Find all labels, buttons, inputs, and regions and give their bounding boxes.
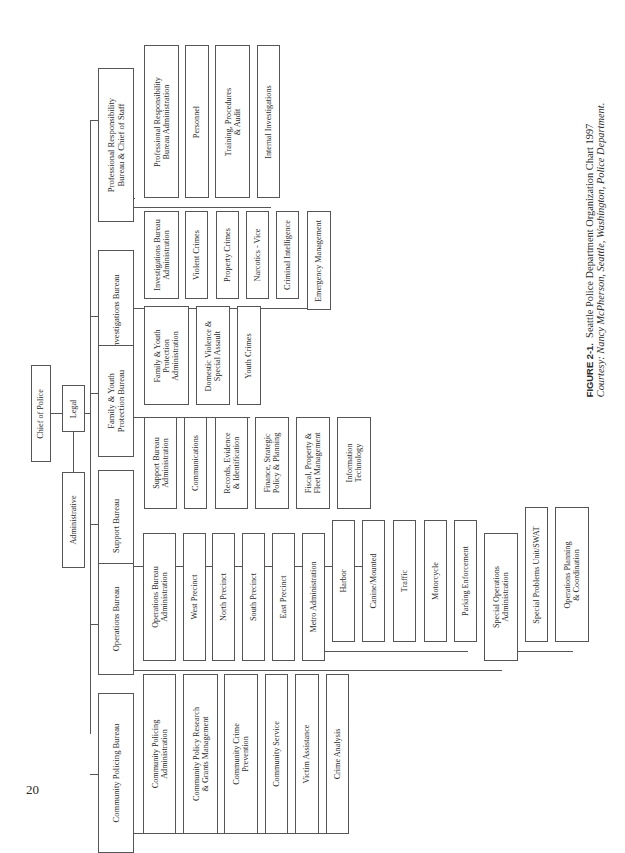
unit-label: Internal Investigations: [264, 85, 273, 158]
unit-box: Records, Evidence & Identification: [215, 417, 248, 509]
connector: [134, 198, 135, 199]
unit-box: Canine/Mounted: [362, 520, 385, 642]
unit-label: Parking Enforcement: [461, 546, 470, 616]
unit-label: Violent Crimes: [192, 230, 201, 280]
unit-box: North Precinct: [212, 533, 235, 661]
unit-box: Motorcycle: [424, 520, 447, 642]
unit-box: Finance, Strategic Policy & Planning: [255, 417, 289, 509]
unit-box: Internal Investigations: [257, 45, 280, 198]
unit-box: Special Operations Administration: [484, 533, 518, 661]
unit-label: Fiscal, Property & Fleet Management: [304, 432, 322, 493]
unit-label: Victim Assistance: [302, 725, 311, 784]
unit-box: Metro Administration: [302, 533, 325, 661]
unit-box: Information Technology: [337, 417, 371, 509]
metro-bus: [324, 651, 468, 652]
unit-label: Crime Analysis: [333, 729, 342, 780]
figure-label: FIGURE 2-1.: [584, 343, 595, 397]
bureau-operations: Operations Bureau: [98, 563, 134, 675]
figure-credit: Courtesy: Nancy McPherson, Seattle, Wash…: [595, 103, 606, 398]
unit-box: Investigations Bureau Administration: [144, 211, 179, 299]
unit-box: Criminal Intelligence: [276, 211, 299, 299]
unit-label: Professional Responsibility Bureau Admin…: [152, 77, 170, 167]
unit-label: Personnel: [192, 105, 201, 137]
unit-box: East Precinct: [272, 533, 295, 661]
bureau-label: Support Bureau: [111, 498, 121, 552]
unit-box: Violent Crimes: [185, 211, 208, 299]
unit-box: Traffic: [393, 520, 416, 642]
unit-label: Support Bureau Administration: [151, 437, 169, 489]
bureau-label: Family & Youth Protection Bureau: [106, 370, 126, 432]
bureau-label: Operations Bureau: [111, 587, 121, 652]
connector: [90, 120, 98, 121]
unit-box: Domestic Violence & Special Assault: [196, 306, 230, 405]
administrative-label: Administrative: [69, 495, 78, 544]
connector: [90, 774, 98, 775]
unit-label: Community Policing Administration: [150, 720, 168, 788]
unit-label: Community Crime Prevention: [232, 723, 250, 785]
unit-box: Professional Responsibility Bureau Admin…: [144, 45, 179, 198]
connector: [73, 432, 74, 472]
unit-label: North Precinct: [219, 573, 228, 621]
unit-label: Operations Bureau Administration: [150, 566, 168, 628]
unit-label: Community Service: [272, 721, 281, 787]
unit-label: Metro Administration: [309, 561, 318, 632]
unit-box: West Precinct: [183, 533, 206, 661]
connector: [134, 308, 135, 309]
unit-label: Communications: [191, 435, 200, 491]
legal-box: Legal: [62, 385, 85, 432]
unit-label: Canine/Mounted: [369, 553, 378, 608]
unit-box: Family & Youth Protection Administration: [144, 306, 189, 405]
unit-box: Emergency Management: [307, 211, 331, 310]
unit-label: West Precinct: [190, 574, 199, 619]
connector: [90, 524, 98, 525]
unit-bus-prof: [134, 207, 271, 208]
bureau-professional-responsibility: Professional Responsibility Bureau & Chi…: [98, 68, 134, 222]
unit-label: Information Technology: [345, 443, 363, 482]
unit-box: Crime Analysis: [326, 674, 349, 834]
unit-label: Training, Procedures & Audit: [223, 87, 241, 155]
unit-box: Operations Planning & Coordination: [555, 507, 589, 642]
unit-label: Investigations Bureau Administration: [152, 219, 170, 291]
unit-label: Motorcycle: [431, 562, 440, 600]
figure-title: Seattle Police Department Organization C…: [584, 124, 595, 338]
bureau-community-policing: Community Policing Bureau: [98, 693, 134, 853]
unit-box: Operations Bureau Administration: [143, 533, 176, 661]
figure-caption: FIGURE 2-1. Seattle Police Department Or…: [584, 103, 606, 398]
legal-label: Legal: [69, 399, 78, 418]
unit-label: Criminal Intelligence: [283, 220, 292, 290]
unit-label: Emergency Management: [314, 220, 323, 302]
bureau-label: Community Policing Bureau: [111, 724, 121, 823]
unit-box: Community Crime Prevention: [224, 674, 258, 834]
chief-of-police-box: Chief of Police: [31, 365, 51, 462]
connector: [90, 316, 98, 317]
unit-box: Property Crimes: [216, 211, 239, 299]
unit-box: Community Policing Administration: [143, 674, 176, 834]
unit-bus-ops: [134, 670, 502, 671]
unit-label: Youth Crimes: [244, 333, 253, 378]
unit-box: Youth Crimes: [237, 306, 261, 405]
bureau-label: Investigations Bureau: [111, 274, 121, 349]
unit-label: Operations Planning & Coordination: [563, 541, 581, 608]
unit-box: Narcotics - Vice: [246, 211, 269, 299]
unit-label: South Precinct: [249, 573, 258, 621]
bureau-label: Professional Responsibility Bureau & Chi…: [106, 98, 126, 192]
chief-of-police-label: Chief of Police: [36, 389, 45, 439]
connector: [90, 624, 98, 625]
unit-box: Community Service: [265, 674, 288, 834]
bureau-family-youth: Family & Youth Protection Bureau: [98, 345, 134, 457]
connector: [90, 393, 98, 394]
unit-box: Victim Assistance: [295, 674, 319, 834]
unit-box: Support Bureau Administration: [144, 417, 177, 509]
unit-box: South Precinct: [242, 533, 265, 661]
unit-label: Family & Youth Protection Administration: [153, 329, 181, 382]
unit-label: Traffic: [400, 570, 409, 592]
unit-label: Records, Evidence & Identification: [222, 432, 240, 493]
unit-box: Personnel: [185, 45, 209, 198]
unit-box: Harbor: [332, 520, 355, 642]
specops-bus: [518, 651, 573, 652]
unit-box: Special Problems Unit/SWAT: [525, 507, 548, 642]
unit-box: Fiscal, Property & Fleet Management: [296, 417, 330, 509]
unit-box: Parking Enforcement: [454, 520, 477, 642]
unit-label: East Precinct: [279, 576, 288, 619]
unit-label: Domestic Violence & Special Assault: [204, 320, 222, 391]
